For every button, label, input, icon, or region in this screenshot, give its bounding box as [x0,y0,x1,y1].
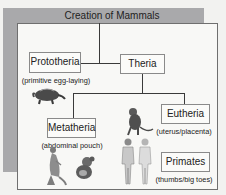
node-eutheria: Eutheria [161,104,210,124]
connector-branch [73,93,185,94]
eutheria-note: (uterus/placenta) [153,127,215,136]
monkey-icon [124,107,154,137]
node-metatheria: Metatheria [47,118,96,138]
diagram-title: Creation of Mammals [17,9,207,23]
node-primates: Primates [161,152,210,172]
anteater-icon [32,86,66,106]
connector-theria-down [142,73,143,93]
connector-eutheria [184,93,185,104]
human-male-icon [120,138,136,186]
node-prototheria: Prototheria [29,52,81,73]
connector-metatheria [73,93,74,118]
human-female-icon [137,138,153,186]
node-theria: Theria [120,54,165,74]
prototheria-note: (primitive egg-laying) [18,76,94,85]
koala-icon [74,156,96,180]
connector-proto-theria [81,63,120,64]
primates-note: (thumbs/big toes) [152,175,216,184]
kangaroo-icon [43,147,67,187]
connector-title-down [99,23,100,63]
